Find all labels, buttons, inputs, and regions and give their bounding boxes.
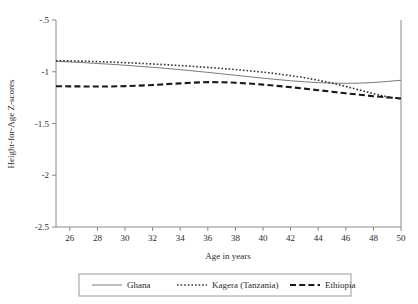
- chart-legend: GhanaKagera (Tanzania)Ethiopia: [79, 274, 356, 296]
- x-tick-label: 44: [314, 233, 324, 243]
- y-tick-label: -2.5: [35, 222, 50, 232]
- y-tick-label: -1: [42, 67, 50, 77]
- x-tick-label: 32: [148, 233, 157, 243]
- x-axis-title: Age in years: [205, 251, 251, 261]
- data-series-group: [56, 61, 401, 99]
- height-for-age-line-chart: -.5-1-1.5-2-2.5 262830323436384042444648…: [0, 0, 418, 304]
- x-tick-label: 46: [341, 233, 351, 243]
- x-tick-label: 48: [369, 233, 379, 243]
- x-tick-label: 26: [65, 233, 75, 243]
- series-line-ethiopia: [56, 82, 401, 98]
- y-tick-label: -1.5: [35, 119, 50, 129]
- x-tick-label: 40: [259, 233, 269, 243]
- legend-label-ghana: Ghana: [127, 280, 151, 290]
- y-tick-label: -2: [42, 170, 50, 180]
- x-tick-label: 30: [121, 233, 131, 243]
- x-axis-ticks: 26283032343638404244464850: [65, 227, 406, 243]
- series-line-kagera-tanzania: [56, 61, 401, 99]
- x-tick-label: 34: [176, 233, 186, 243]
- x-tick-label: 36: [203, 233, 213, 243]
- y-axis-title: Height-for-Age Z-scores: [6, 79, 16, 169]
- plot-spines: [56, 20, 401, 227]
- series-line-ghana: [56, 61, 401, 83]
- y-axis-ticks: -.5-1-1.5-2-2.5: [35, 15, 56, 232]
- legend-label-ethiopia: Ethiopia: [325, 280, 356, 290]
- y-tick-label: -.5: [39, 15, 49, 25]
- x-tick-label: 50: [397, 233, 407, 243]
- x-tick-label: 42: [286, 233, 295, 243]
- chart-figure: -.5-1-1.5-2-2.5 262830323436384042444648…: [0, 0, 418, 304]
- x-tick-label: 38: [231, 233, 241, 243]
- x-tick-label: 28: [93, 233, 103, 243]
- legend-label-kagera-tanzania: Kagera (Tanzania): [212, 280, 279, 290]
